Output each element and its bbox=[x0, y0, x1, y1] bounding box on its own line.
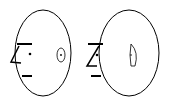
ear-dot bbox=[60, 54, 62, 56]
head-outline bbox=[99, 10, 159, 96]
ear-dot bbox=[130, 54, 132, 56]
diagram-canvas: Two head outlines in profile facing left… bbox=[0, 0, 170, 106]
nose-shape bbox=[11, 46, 21, 63]
eye-dot bbox=[96, 54, 99, 57]
head-left bbox=[11, 10, 71, 96]
head-profiles-figure bbox=[0, 0, 170, 106]
eye-dot bbox=[29, 53, 32, 56]
head-outline bbox=[15, 10, 71, 96]
head-right bbox=[87, 10, 159, 96]
